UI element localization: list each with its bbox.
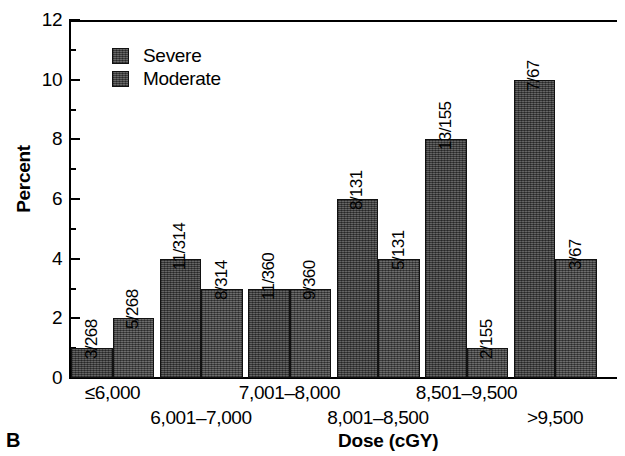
x-tick-label: >9,500 xyxy=(527,408,583,427)
legend-swatch-severe-icon xyxy=(112,48,129,64)
bar-moderate xyxy=(201,289,243,379)
legend-swatch-moderate-icon xyxy=(112,71,129,87)
legend: Severe Moderate xyxy=(112,44,221,90)
bar-chart-figure: Percent 024681012 3/2685/26811/3148/3141… xyxy=(0,0,625,456)
bar-value-label: 9/360 xyxy=(301,260,318,300)
bar-severe xyxy=(160,259,202,378)
bar-value-label: 2/155 xyxy=(478,320,495,360)
bar-moderate xyxy=(555,259,597,378)
x-tick-label: 8,501–9,500 xyxy=(416,383,517,402)
bar-moderate xyxy=(290,289,332,379)
bar-value-label: 3/67 xyxy=(567,239,584,270)
x-tick-label: 6,001–7,000 xyxy=(150,408,251,427)
bar-severe xyxy=(337,199,379,378)
bar-value-label: 5/131 xyxy=(390,230,407,270)
x-tick-label: 8,001–8,500 xyxy=(327,408,428,427)
legend-label-severe: Severe xyxy=(143,46,201,65)
bar-value-label: 5/268 xyxy=(124,290,141,330)
bar-value-label: 11/360 xyxy=(260,252,277,299)
bar-moderate xyxy=(378,259,420,378)
legend-item-severe: Severe xyxy=(112,44,221,67)
bar-value-label: 13/155 xyxy=(437,102,454,150)
bar-severe xyxy=(425,139,467,378)
x-tick-label: ≤6,000 xyxy=(85,383,141,402)
panel-letter: B xyxy=(6,430,20,450)
legend-item-moderate: Moderate xyxy=(112,67,221,90)
bar-value-label: 3/268 xyxy=(83,320,100,360)
bar-value-label: 7/67 xyxy=(525,60,542,91)
bar-value-label: 8/131 xyxy=(348,170,365,210)
bar-value-label: 8/314 xyxy=(213,260,230,300)
legend-label-moderate: Moderate xyxy=(143,69,221,88)
x-axis-title: Dose (cGY) xyxy=(338,431,438,450)
bar-severe xyxy=(248,289,290,379)
bar-severe xyxy=(514,80,556,378)
x-tick-label: 7,001–8,000 xyxy=(239,383,340,402)
bar-value-label: 11/314 xyxy=(171,223,188,270)
